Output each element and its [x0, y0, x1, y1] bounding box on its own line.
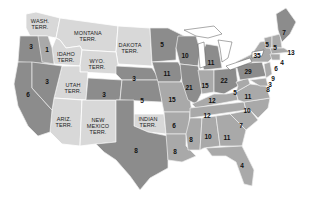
virginia-votes: 11	[245, 93, 252, 100]
vermont-votes: 5	[265, 41, 269, 48]
florida-region	[206, 146, 254, 186]
nebraska-region	[116, 66, 160, 80]
ariz-terr-label: ARIZ.TERR.	[56, 116, 73, 128]
new-york-votes: 35	[253, 52, 260, 59]
colorado-votes: 3	[102, 91, 106, 98]
louisiana-votes: 8	[173, 148, 177, 155]
florida-votes: 4	[240, 162, 244, 169]
rhode-island-votes: 4	[280, 59, 284, 66]
idaho-terr-line2: TERR.	[57, 57, 75, 63]
oregon-votes: 3	[29, 43, 33, 50]
utah-terr-label: UTAHTERR.	[65, 82, 82, 94]
georgia-votes: 11	[224, 134, 231, 141]
kentucky-votes: 12	[208, 97, 215, 104]
idaho-terr-label: IDAHOTERR.	[57, 51, 75, 63]
montana-terr-label: MONTANATERR.	[74, 30, 102, 42]
wash-terr-label: WASH.TERR.	[31, 18, 49, 30]
iowa-votes: 11	[164, 70, 171, 77]
kansas-votes: 5	[140, 97, 144, 104]
utah-terr-line2: TERR.	[65, 88, 82, 94]
north-carolina-votes: 10	[243, 107, 250, 114]
nevada-votes: 3	[45, 78, 49, 85]
arkansas-votes: 6	[172, 122, 176, 129]
texas-votes: 8	[134, 147, 138, 154]
mississippi-votes: 8	[189, 136, 193, 143]
lake-michigan	[198, 42, 206, 68]
illinois-votes: 21	[185, 84, 192, 91]
new-mexico-terr-line3: TERR.	[87, 129, 109, 135]
connecticut-votes: 6	[274, 65, 278, 72]
connecticut-region	[270, 54, 280, 60]
west-virginia-votes: 5	[233, 89, 237, 96]
new-mexico-terr-label: NEWMEXICOTERR.	[87, 117, 109, 135]
maine-votes: 7	[282, 29, 286, 36]
new-hampshire-votes: 5	[273, 44, 277, 51]
pennsylvania-votes: 29	[244, 68, 251, 75]
wyo-terr-label: WYO.TERR.	[89, 58, 106, 70]
alabama-votes: 10	[204, 133, 211, 140]
south-carolina-votes: 7	[239, 122, 243, 129]
wyo-terr-line2: TERR.	[89, 64, 106, 70]
indian-terr-label: INDIANTERR.	[138, 116, 157, 128]
california-votes: 6	[26, 91, 30, 98]
missouri-votes: 15	[168, 96, 175, 103]
dakota-terr-label: DAKOTATERR.	[119, 42, 142, 54]
indian-terr-line2: TERR.	[138, 122, 157, 128]
wisconsin-votes: 10	[181, 52, 188, 59]
massachusetts-votes: 13	[287, 49, 294, 56]
michigan-votes: 11	[208, 59, 215, 66]
ohio-votes: 22	[220, 77, 227, 84]
nebraska-votes: 3	[132, 75, 136, 82]
indiana-votes: 15	[201, 82, 208, 89]
dakota-terr-line2: TERR.	[119, 48, 142, 54]
oregon-east-votes: 1	[45, 46, 49, 53]
ariz-terr-line2: TERR.	[56, 122, 73, 128]
tennessee-votes: 12	[203, 112, 210, 119]
montana-terr-line2: TERR.	[74, 36, 102, 42]
wash-terr-line2: TERR.	[31, 24, 49, 30]
maryland-votes: 8	[266, 86, 270, 93]
minnesota-votes: 5	[160, 41, 164, 48]
arkansas-region	[164, 112, 190, 134]
